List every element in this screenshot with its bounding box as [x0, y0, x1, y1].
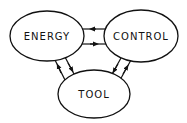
- node-energy: ENERGY: [10, 11, 84, 61]
- node-energy-label: ENERGY: [24, 31, 70, 42]
- diagram-canvas: ENERGY CONTROL TOOL: [0, 0, 187, 123]
- node-tool-label: TOOL: [77, 89, 109, 100]
- node-control: CONTROL: [104, 10, 178, 62]
- node-tool: TOOL: [58, 70, 130, 118]
- node-control-label: CONTROL: [113, 31, 169, 42]
